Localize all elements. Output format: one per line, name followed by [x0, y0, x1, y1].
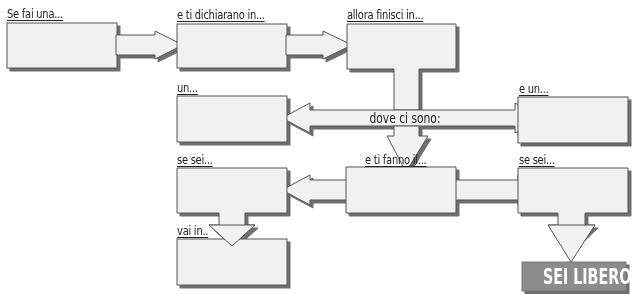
box-ti-fanno [346, 167, 456, 213]
label-se-sei-right: se sei... [519, 153, 555, 166]
result-sei-libero: SEI LIBERO!!! [522, 262, 626, 291]
arrow-tip-right [548, 225, 595, 262]
box-e-un [518, 97, 628, 143]
box-allora-finisci [347, 24, 456, 110]
label-un: un... [177, 81, 198, 94]
label-se-fai-una: Se fai una... [7, 7, 63, 20]
label-dove-ci-sono: dove ci sono: [350, 111, 461, 125]
box-un [177, 96, 287, 142]
arrow-right-2 [286, 31, 352, 59]
flowchart-shapes [0, 0, 633, 294]
label-vai-in: vai in.. [177, 224, 208, 237]
label-ti-fanno-il: e ti fanno il... [365, 153, 426, 166]
label-e-un: e un... [519, 82, 549, 95]
label-allora-finisci: allora finisci in... [347, 8, 423, 21]
label-se-sei-left: se sei... [177, 153, 213, 166]
result-text: SEI LIBERO!!! [543, 262, 633, 291]
box-se-fai-una [7, 23, 117, 68]
label-ti-dichiarano: e ti dichiarano in... [177, 8, 265, 21]
box-dichiarano [177, 24, 287, 68]
arrow-right-1 [116, 31, 183, 59]
